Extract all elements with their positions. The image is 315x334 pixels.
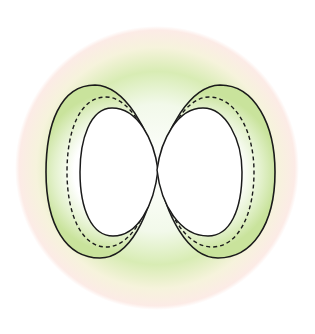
diagram-canvas bbox=[0, 0, 315, 334]
